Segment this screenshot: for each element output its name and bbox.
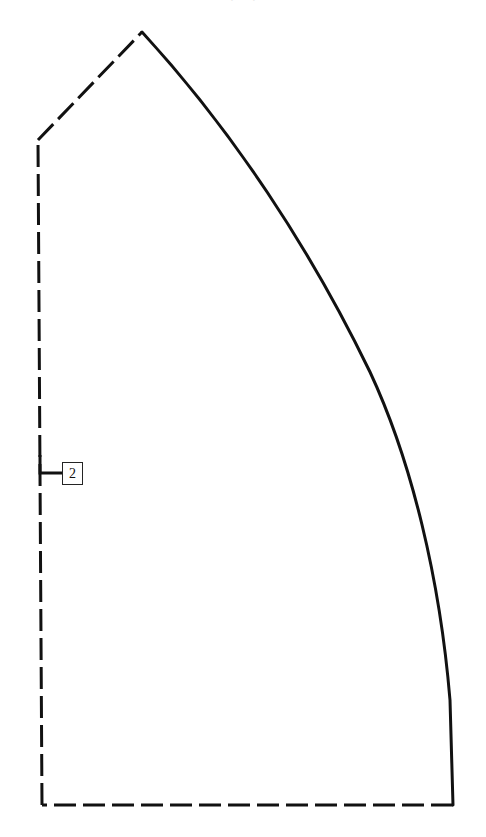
callout-label-text: 2 xyxy=(69,467,76,481)
figure-canvas: (. . .) 2 xyxy=(0,0,486,837)
technical-drawing xyxy=(0,0,486,837)
solid-curved-edge xyxy=(142,32,453,805)
callout-leader-line xyxy=(40,455,62,473)
dashed-diagonal-edge xyxy=(38,32,142,140)
callout-label-2[interactable]: 2 xyxy=(62,462,83,485)
